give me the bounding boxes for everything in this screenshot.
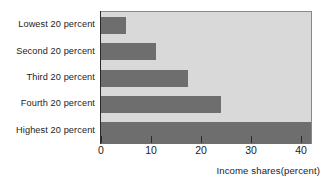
category-label: Third 20 percent <box>0 72 95 82</box>
x-tick-label: 0 <box>98 144 104 156</box>
x-tick-label: 40 <box>295 144 307 156</box>
plot-area <box>101 11 312 144</box>
x-tick-mark <box>301 136 302 143</box>
category-axis: Lowest 20 percentSecond 20 percentThird … <box>0 11 98 143</box>
x-tick-mark <box>101 136 102 143</box>
x-tick-label: 30 <box>245 144 257 156</box>
x-tick-label: 20 <box>195 144 207 156</box>
category-label: Second 20 percent <box>0 46 95 56</box>
y-axis-line <box>100 11 101 144</box>
category-label: Highest 20 percent <box>0 125 95 135</box>
x-tick-mark <box>251 136 252 143</box>
bar <box>101 43 156 60</box>
x-tick-label: 10 <box>145 144 157 156</box>
x-tick-mark <box>201 136 202 143</box>
x-tick-mark <box>151 136 152 143</box>
x-axis-title: Income shares(percent) <box>216 165 320 176</box>
income-shares-bar-chart: Lowest 20 percentSecond 20 percentThird … <box>0 0 326 184</box>
bar <box>101 17 126 34</box>
category-label: Lowest 20 percent <box>0 19 95 29</box>
x-axis: 010203040 <box>101 143 313 163</box>
bar <box>101 70 188 87</box>
category-label: Fourth 20 percent <box>0 98 95 108</box>
bar <box>101 122 311 144</box>
bar <box>101 96 221 113</box>
